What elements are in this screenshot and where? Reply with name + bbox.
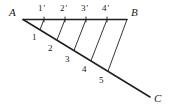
top-point-digit-3: 3 bbox=[81, 3, 86, 13]
diagonal-point-label-2: 2 bbox=[48, 44, 53, 53]
connector-5 bbox=[108, 20, 127, 72]
top-point-digit-1: 1 bbox=[38, 3, 43, 13]
top-point-digit-2: 2 bbox=[60, 3, 65, 13]
vertex-label-C: C bbox=[154, 93, 161, 104]
top-point-prime-4: ' bbox=[108, 3, 110, 13]
top-point-label-3: 3' bbox=[81, 4, 88, 13]
top-point-prime-2: ' bbox=[66, 3, 68, 13]
top-point-label-1: 1' bbox=[38, 4, 45, 13]
diagonal-point-label-1: 1 bbox=[32, 33, 37, 42]
top-point-prime-1: ' bbox=[44, 3, 46, 13]
top-point-label-2: 2' bbox=[60, 4, 67, 13]
figure-canvas bbox=[0, 0, 172, 112]
top-point-label-4: 4' bbox=[102, 4, 109, 13]
top-point-prime-3: ' bbox=[87, 3, 89, 13]
vertex-label-A: A bbox=[9, 7, 16, 18]
connector-3 bbox=[74, 20, 86, 51]
top-point-digit-4: 4 bbox=[102, 3, 107, 13]
connector-1 bbox=[40, 20, 44, 30]
ray-AC bbox=[23, 20, 150, 98]
connector-2 bbox=[57, 20, 65, 41]
rays-group bbox=[23, 20, 150, 98]
connector-4 bbox=[91, 20, 107, 61]
diagonal-point-label-5: 5 bbox=[99, 76, 104, 85]
geometry-figure: ABC1'2'3'4'12345 bbox=[0, 0, 172, 112]
diagonal-point-label-3: 3 bbox=[65, 55, 70, 64]
vertex-label-B: B bbox=[131, 7, 138, 18]
diagonal-point-label-4: 4 bbox=[82, 65, 87, 74]
